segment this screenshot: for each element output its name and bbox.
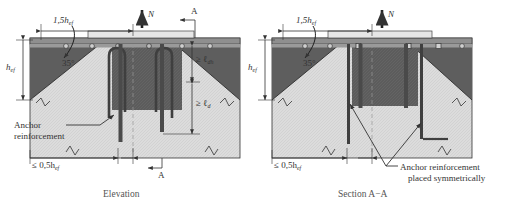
cone-angle-label-elevation: 35° (62, 58, 75, 68)
anchor-callout-label-section-line2: placed symmetrically (408, 173, 486, 183)
figure-root: 1,5hef hef N A A 35° (0, 0, 513, 210)
drawing-canvas: 1,5hef hef N A A 35° (0, 0, 513, 210)
anchor-callout-label-section-line1: Anchor reinforcement (400, 162, 480, 172)
cone-angle-label-section: 35° (303, 58, 316, 68)
section-mark-top-label: A (191, 6, 198, 16)
load-arrow-label-section: N (387, 9, 395, 19)
caption-elevation: Elevation (103, 189, 140, 199)
anchor-callout-label-line1: Anchor (14, 120, 41, 130)
caption-section: Section A−A (338, 189, 388, 199)
load-arrow-label-elevation: N (147, 9, 155, 19)
section-mark-bottom-label: A (158, 170, 165, 180)
anchor-callout-label-line2: reinforcement (14, 131, 65, 141)
